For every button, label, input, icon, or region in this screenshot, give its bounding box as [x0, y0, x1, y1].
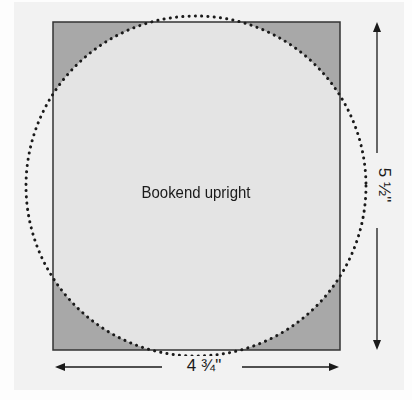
arrow-left-icon	[55, 363, 65, 371]
bookend-upright-label: Bookend upright	[24, 183, 369, 203]
height-dimension-label: 5 ½"	[370, 155, 394, 215]
width-dimension-label: 4 ¾"	[168, 356, 240, 376]
arrow-right-icon	[329, 363, 339, 371]
arrow-up-icon	[373, 22, 381, 32]
arrow-down-icon	[373, 340, 381, 350]
